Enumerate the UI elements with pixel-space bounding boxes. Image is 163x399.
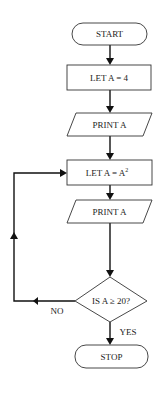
arrow-left-icon	[33, 297, 38, 305]
print-a-1-label: PRINT A	[92, 120, 127, 130]
no-label: NO	[51, 306, 64, 316]
yes-label: YES	[119, 327, 136, 337]
process-let-a-4: LET A = 4	[67, 65, 151, 90]
arrow-up-icon	[10, 232, 18, 239]
process-let-a-squared: LET A = A2	[67, 160, 152, 185]
io-print-a-1: PRINT A	[67, 113, 152, 136]
start-label: START	[96, 29, 124, 39]
print-a-2-label: PRINT A	[92, 207, 127, 217]
arrow-right-icon	[60, 169, 67, 177]
flowchart: START LET A = 4 PRINT A LET A = A2 PRINT…	[0, 0, 163, 399]
let-a-4-label: LET A = 4	[90, 73, 129, 83]
start-terminal: START	[72, 23, 147, 45]
io-print-a-2: PRINT A	[67, 200, 152, 223]
stop-terminal: STOP	[75, 345, 148, 368]
stop-label: STOP	[101, 352, 123, 362]
decision-a-gte-20: IS A ≥ 20?	[75, 277, 147, 322]
let-a-squared-label: LET A = A2	[86, 167, 129, 178]
decision-label: IS A ≥ 20?	[92, 296, 130, 306]
